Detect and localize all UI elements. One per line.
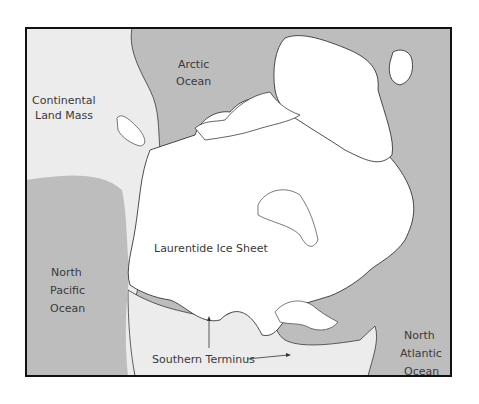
ice-sheet-map: Arctic Ocean Continental Land Mass Laure…	[0, 0, 479, 404]
label-arctic-ocean-1: Arctic	[178, 58, 209, 71]
label-pacific-3: Ocean	[50, 302, 85, 315]
label-southern-terminus: Southern Terminus	[152, 353, 255, 366]
label-ice-sheet: Laurentide Ice Sheet	[154, 242, 269, 255]
label-arctic-ocean-2: Ocean	[176, 75, 211, 88]
label-atlantic-2: Atlantic	[400, 347, 442, 360]
label-continental-2: Land Mass	[35, 109, 93, 122]
label-pacific-2: Pacific	[50, 284, 85, 297]
label-pacific-1: North	[51, 266, 82, 279]
label-continental-1: Continental	[32, 94, 96, 107]
label-atlantic-1: North	[404, 329, 435, 342]
label-atlantic-3: Ocean	[404, 365, 439, 378]
